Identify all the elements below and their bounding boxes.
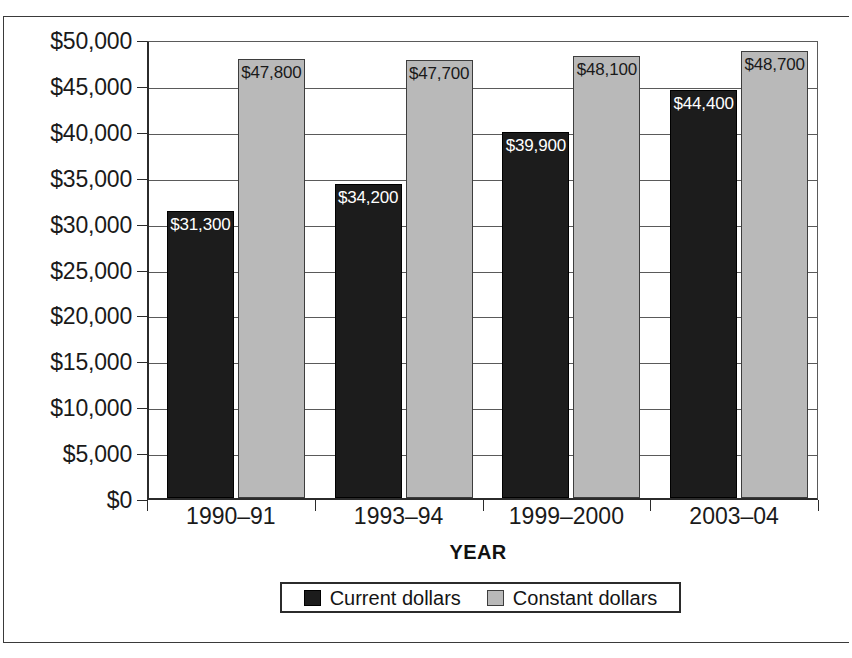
legend-label-constant: Constant dollars [513,588,658,608]
y-axis-label: $40,000 [4,121,132,144]
y-axis-tick [137,316,147,317]
y-axis-tick [137,408,147,409]
y-axis-label: $10,000 [4,397,132,420]
legend-item-constant[interactable]: Constant dollars [487,588,658,608]
bar-value-label: $44,400 [674,95,734,112]
y-axis-tick [137,41,147,42]
y-axis-label: $20,000 [4,305,132,328]
bar-value-label: $34,200 [338,189,398,206]
y-axis-tick [137,362,147,363]
bar-current: $39,900 [502,132,569,498]
bar-value-label: $47,700 [409,65,469,82]
y-axis-label: $50,000 [4,30,132,53]
bar-value-label: $39,900 [506,137,566,154]
chart-legend: Current dollars Constant dollars [280,582,681,613]
bar-value-label: $31,300 [170,216,230,233]
y-axis-label: $0 [4,489,132,512]
legend-label-current: Current dollars [330,588,461,608]
bar-current: $34,200 [335,184,402,498]
dark-swatch-icon [304,590,321,606]
y-axis-label: $25,000 [4,259,132,282]
bar-constant: $48,100 [573,56,640,498]
y-axis-label: $45,000 [4,75,132,98]
x-axis-title: YEAR [0,541,852,564]
x-axis-title-text: YEAR [449,541,506,564]
bar-value-label: $48,700 [745,56,805,73]
bar-current: $31,300 [167,211,234,498]
y-axis-tick [137,454,147,455]
y-axis-tick [137,179,147,180]
legend-item-current[interactable]: Current dollars [304,588,461,608]
bar-constant: $47,800 [238,59,305,498]
x-axis-tick [483,500,484,511]
x-axis-tick [315,500,316,511]
x-axis-tick [818,500,819,511]
y-axis-tick [137,271,147,272]
bar-current: $44,400 [670,90,737,498]
y-axis-label: $5,000 [4,443,132,466]
x-axis-tick-origin [147,500,148,511]
x-axis-category-label: 1990–91 [186,505,276,528]
bar-value-label: $48,100 [577,61,637,78]
bar-constant: $48,700 [741,51,808,498]
x-axis-category-label: 2003–04 [689,505,779,528]
bar-chart-figure: $50,000$45,000$40,000$35,000$30,000$25,0… [0,0,852,658]
light-swatch-icon [487,590,504,606]
y-axis-label: $15,000 [4,351,132,374]
bar-constant: $47,700 [406,60,473,498]
y-axis-tick [137,225,147,226]
y-axis-tick [137,500,147,501]
x-axis-category-label: 1993–94 [354,505,444,528]
bar-value-label: $47,800 [241,64,301,81]
plot-area: $31,300$47,800$34,200$47,700$39,900$48,1… [147,41,818,500]
y-axis-label: $30,000 [4,213,132,236]
y-axis-label: $35,000 [4,167,132,190]
x-axis-tick [650,500,651,511]
x-axis-category-label: 1999–2000 [509,505,624,528]
y-axis-tick [137,87,147,88]
y-axis-tick [137,133,147,134]
